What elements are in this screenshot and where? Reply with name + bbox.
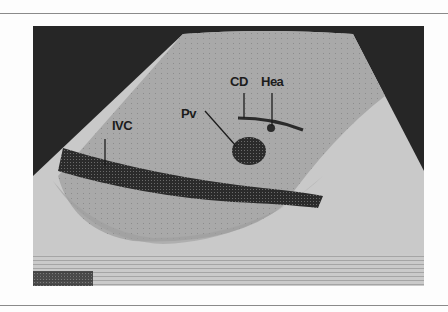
hea-label: Hea (261, 74, 283, 89)
bottom-rule (0, 305, 448, 306)
pv-label: Pv (181, 106, 196, 121)
ultrasound-scan-graphic (33, 26, 424, 286)
cd-label: CD (230, 74, 248, 89)
ultrasound-image: IVC Pv CD Hea (33, 26, 424, 286)
ivc-label: IVC (112, 118, 132, 133)
top-rule (0, 13, 448, 14)
